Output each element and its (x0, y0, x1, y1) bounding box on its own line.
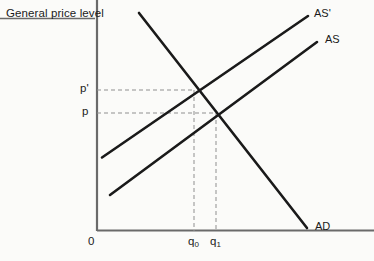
curve-label-as: AS (325, 34, 340, 45)
y-tick-p-prime: p' (80, 83, 89, 95)
origin-label: 0 (88, 236, 94, 248)
curve-as-prime (102, 16, 308, 158)
curve-label-ad: AD (315, 221, 330, 232)
curve-label-as-prime: AS' (314, 8, 331, 19)
x-tick-q1-sub: 1 (216, 240, 220, 249)
x-tick-q0: q0 (188, 236, 199, 248)
x-tick-q1: q1 (210, 236, 221, 248)
y-axis-title: General price level (6, 8, 104, 20)
curve-as (110, 42, 317, 195)
as-ad-diagram: General price level 0 p' p q0 q1 AS' AS … (0, 0, 374, 261)
curve-ad (139, 13, 307, 228)
y-tick-p: p (82, 106, 88, 118)
x-tick-q0-sub: 0 (194, 240, 198, 249)
